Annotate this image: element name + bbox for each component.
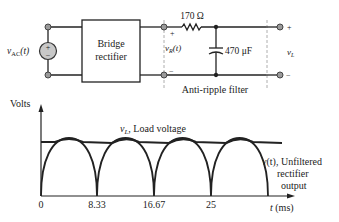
vl-label: vL [287, 47, 295, 58]
bridge-label-line2: rectifier [95, 51, 127, 62]
source-label: vAC(t) [7, 46, 29, 57]
terminal-node [161, 72, 167, 78]
waveform-chart: Volts t (ms) 0 8.33 16.67 25 vL, Load vo… [10, 98, 322, 214]
resistor-label: 170 Ω [180, 11, 204, 21]
rectifier-diagram: + − vAC(t) Bridge rectifier 170 Ω 470 μF… [0, 0, 339, 222]
vr-plus: + [170, 29, 175, 38]
unfiltered-annotation-line2: rectifier [277, 168, 309, 179]
output-minus: − [286, 71, 291, 80]
x-axis-arrow-icon [287, 194, 295, 199]
capacitor-label: 470 μF [225, 46, 252, 56]
x-tick: 0 [39, 199, 44, 210]
vr-label: vR(t) [165, 43, 181, 54]
vr-minus: − [169, 67, 174, 76]
unfiltered-annotation-line3: output [281, 180, 307, 191]
x-tick: 25 [206, 199, 216, 210]
terminal-node [45, 24, 51, 30]
unfiltered-annotation-line1: v(t), Unfiltered [262, 156, 322, 168]
ac-source-icon: + − [40, 43, 57, 60]
terminal-node [45, 72, 51, 78]
y-axis-arrow-icon [39, 104, 44, 112]
load-voltage-annotation: vL, Load voltage [120, 123, 186, 136]
terminal-node [161, 24, 167, 30]
load-voltage-line [41, 139, 282, 143]
output-plus: + [287, 23, 292, 32]
terminal-node [277, 24, 283, 30]
svg-text:−: − [46, 51, 51, 60]
terminal-node [277, 72, 283, 78]
bridge-label-line1: Bridge [97, 38, 125, 49]
filter-caption: Anti-ripple filter [182, 84, 249, 95]
x-tick: 16.67 [143, 199, 166, 210]
unfiltered-output-curve [41, 138, 268, 196]
y-axis-label: Volts [10, 98, 30, 109]
x-tick: 8.33 [88, 199, 106, 210]
resistor-icon [182, 24, 201, 30]
capacitor-icon [209, 27, 223, 75]
x-axis-label: t (ms) [270, 202, 294, 214]
